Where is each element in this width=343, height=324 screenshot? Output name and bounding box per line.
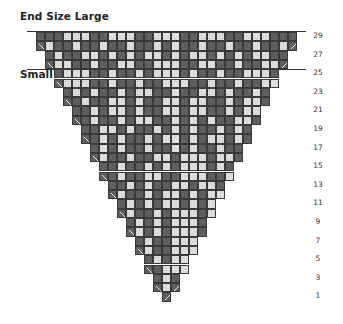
light-stitch bbox=[243, 106, 252, 115]
dark-stitch bbox=[198, 218, 207, 227]
dark-stitch bbox=[216, 106, 225, 115]
ssk-icon bbox=[63, 97, 72, 106]
light-stitch bbox=[234, 134, 243, 143]
dark-stitch bbox=[207, 97, 216, 106]
dark-stitch bbox=[117, 125, 126, 134]
dark-stitch bbox=[126, 162, 135, 171]
dark-stitch bbox=[63, 41, 72, 50]
dark-stitch bbox=[126, 144, 135, 153]
dark-stitch bbox=[108, 60, 117, 69]
dark-stitch bbox=[198, 190, 207, 199]
ssk-icon bbox=[153, 283, 162, 292]
light-stitch bbox=[162, 134, 171, 143]
dark-stitch bbox=[189, 60, 198, 69]
dark-stitch bbox=[243, 60, 252, 69]
dark-stitch bbox=[216, 79, 225, 88]
light-stitch bbox=[198, 60, 207, 69]
dark-stitch bbox=[252, 116, 261, 125]
dark-stitch bbox=[207, 106, 216, 115]
dark-stitch bbox=[162, 51, 171, 60]
dark-stitch bbox=[180, 32, 189, 41]
light-stitch bbox=[126, 32, 135, 41]
light-stitch bbox=[153, 209, 162, 218]
light-stitch bbox=[180, 181, 189, 190]
dark-stitch bbox=[135, 144, 144, 153]
dark-stitch bbox=[207, 144, 216, 153]
light-stitch bbox=[171, 79, 180, 88]
dark-stitch bbox=[225, 116, 234, 125]
ssk-icon bbox=[108, 190, 117, 199]
dark-stitch bbox=[162, 144, 171, 153]
dark-stitch bbox=[81, 41, 90, 50]
light-stitch bbox=[171, 265, 180, 274]
dark-stitch bbox=[81, 116, 90, 125]
light-stitch bbox=[117, 116, 126, 125]
light-stitch bbox=[189, 237, 198, 246]
light-stitch bbox=[189, 69, 198, 78]
dark-stitch bbox=[81, 88, 90, 97]
dark-stitch bbox=[171, 162, 180, 171]
dark-stitch bbox=[270, 51, 279, 60]
light-stitch bbox=[117, 60, 126, 69]
dark-stitch bbox=[135, 199, 144, 208]
dark-stitch bbox=[225, 162, 234, 171]
dark-stitch bbox=[180, 41, 189, 50]
dark-stitch bbox=[207, 41, 216, 50]
dark-stitch bbox=[153, 162, 162, 171]
dark-stitch bbox=[225, 32, 234, 41]
dark-stitch bbox=[99, 116, 108, 125]
light-stitch bbox=[189, 97, 198, 106]
light-stitch bbox=[126, 181, 135, 190]
light-stitch bbox=[144, 199, 153, 208]
light-stitch bbox=[153, 125, 162, 134]
dark-stitch bbox=[243, 41, 252, 50]
light-stitch bbox=[261, 60, 270, 69]
dark-stitch bbox=[180, 116, 189, 125]
light-stitch bbox=[189, 162, 198, 171]
dark-stitch bbox=[162, 227, 171, 236]
light-stitch bbox=[171, 255, 180, 264]
light-stitch bbox=[162, 32, 171, 41]
light-stitch bbox=[135, 227, 144, 236]
light-stitch bbox=[252, 97, 261, 106]
light-stitch bbox=[189, 51, 198, 60]
dark-stitch bbox=[126, 97, 135, 106]
light-stitch bbox=[153, 69, 162, 78]
dark-stitch bbox=[207, 153, 216, 162]
dark-stitch bbox=[207, 125, 216, 134]
dark-stitch bbox=[135, 125, 144, 134]
light-stitch bbox=[135, 218, 144, 227]
light-stitch bbox=[162, 190, 171, 199]
dark-stitch bbox=[216, 88, 225, 97]
dark-stitch bbox=[108, 116, 117, 125]
dark-stitch bbox=[153, 97, 162, 106]
dark-stitch bbox=[153, 79, 162, 88]
light-stitch bbox=[72, 32, 81, 41]
dark-stitch bbox=[90, 79, 99, 88]
row-number-label: 25 bbox=[310, 68, 326, 77]
ssk-icon bbox=[90, 153, 99, 162]
k2tog-icon bbox=[279, 60, 288, 69]
dark-stitch bbox=[117, 181, 126, 190]
dark-stitch bbox=[162, 209, 171, 218]
light-stitch bbox=[171, 237, 180, 246]
dark-stitch bbox=[261, 41, 270, 50]
light-stitch bbox=[180, 265, 189, 274]
light-stitch bbox=[99, 41, 108, 50]
dark-stitch bbox=[72, 51, 81, 60]
light-stitch bbox=[81, 51, 90, 60]
light-stitch bbox=[153, 218, 162, 227]
light-stitch bbox=[108, 106, 117, 115]
light-stitch bbox=[225, 97, 234, 106]
light-stitch bbox=[171, 51, 180, 60]
dark-stitch bbox=[198, 79, 207, 88]
light-stitch bbox=[252, 51, 261, 60]
light-stitch bbox=[63, 69, 72, 78]
dark-stitch bbox=[225, 69, 234, 78]
light-stitch bbox=[180, 79, 189, 88]
light-stitch bbox=[198, 162, 207, 171]
dark-stitch bbox=[225, 144, 234, 153]
light-stitch bbox=[252, 69, 261, 78]
dark-stitch bbox=[108, 162, 117, 171]
light-stitch bbox=[108, 51, 117, 60]
